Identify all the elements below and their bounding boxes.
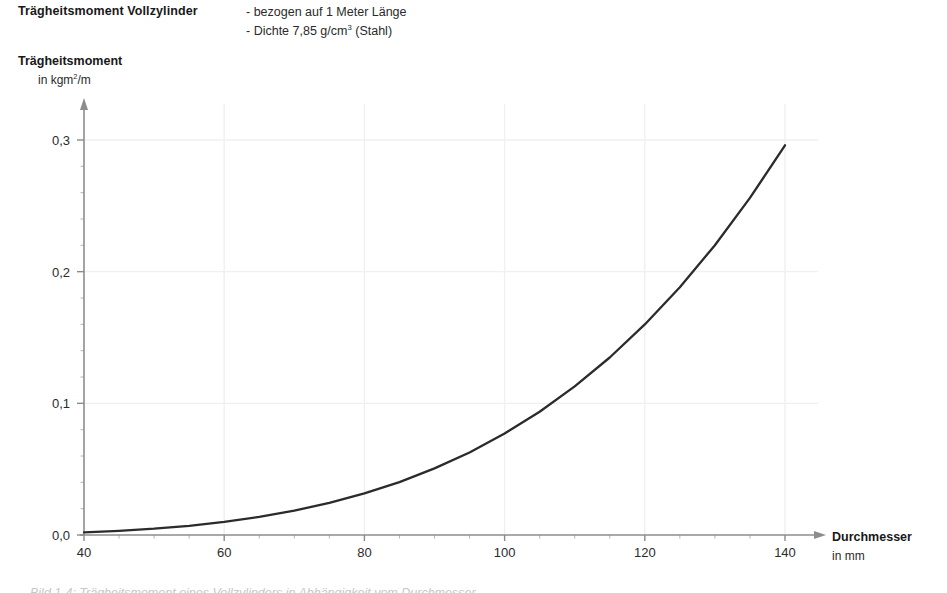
y-tick-label: 0,0 [52,528,70,543]
plot-area: 4060801001201400,00,10,20,3 [0,0,947,593]
x-tick-label: 60 [217,545,231,560]
x-tick-label: 120 [634,545,656,560]
chart-page: Trägheitsmoment Vollzylinder - bezogen a… [0,0,947,593]
x-tick-label: 40 [77,545,91,560]
y-axis-arrowhead [80,98,88,110]
major-ticks [77,140,785,541]
y-tick-label: 0,2 [52,265,70,280]
x-tick-label: 140 [774,545,796,560]
y-tick-label: 0,1 [52,396,70,411]
x-axis-arrowhead [814,531,826,539]
minor-ticks [81,166,750,538]
gridlines [84,104,818,535]
data-curve-traegheitsmoment [84,145,785,532]
figure-caption: Bild 1-4: Trägheitsmoment eines Vollzyli… [30,586,476,593]
x-tick-label: 100 [494,545,516,560]
x-tick-label: 80 [357,545,371,560]
tick-labels: 4060801001201400,00,10,20,3 [52,133,796,560]
y-tick-label: 0,3 [52,133,70,148]
